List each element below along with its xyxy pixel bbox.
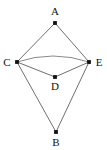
graph-diagram: ABCDE [0, 0, 107, 150]
vertex-e [87, 60, 91, 64]
edge-d-e [55, 62, 89, 77]
vertex-layer [15, 21, 91, 134]
vertex-label-d: D [51, 80, 59, 92]
edge-c-d [17, 62, 55, 77]
vertex-a [53, 21, 57, 25]
vertex-label-c: C [3, 56, 10, 68]
vertex-c [15, 60, 19, 64]
edge-c-b [17, 62, 56, 132]
vertex-d [53, 75, 57, 79]
vertex-b [54, 130, 58, 134]
vertex-label-e: E [96, 56, 103, 68]
vertex-label-a: A [51, 5, 59, 17]
edge-c-e [17, 56, 89, 62]
graph-canvas: ABCDE [0, 0, 107, 150]
vertex-label-b: B [52, 136, 59, 148]
edge-e-b [56, 62, 89, 132]
edge-layer [17, 23, 89, 132]
